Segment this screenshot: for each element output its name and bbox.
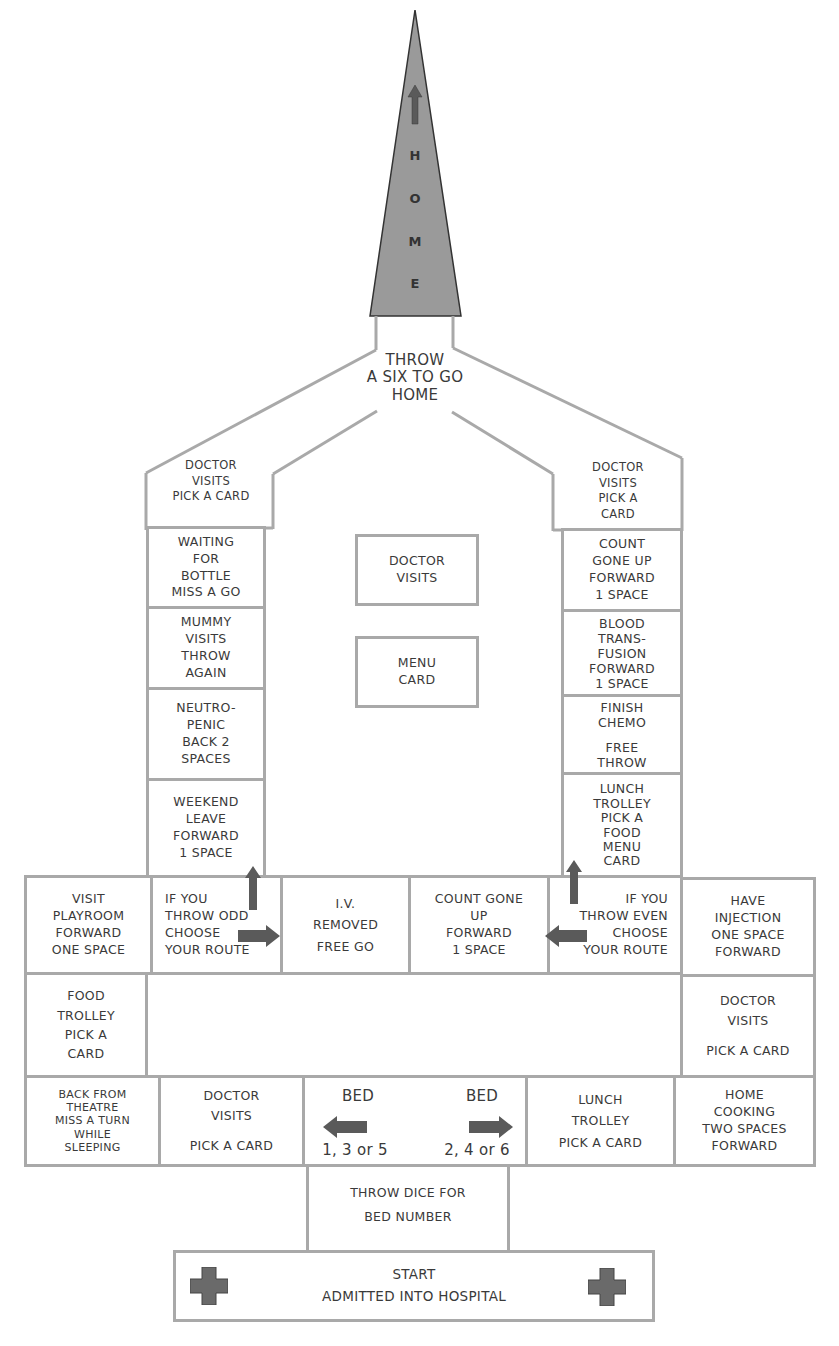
space-line: CARD — [68, 1044, 105, 1063]
space-line: PICK A CARD — [706, 1041, 790, 1061]
space-neutropenic[interactable]: NEUTRO- PENIC BACK 2 SPACES — [146, 687, 266, 781]
space-line: FORWARD — [173, 828, 239, 845]
space-line: COUNT — [599, 536, 645, 553]
space-throw-dice[interactable]: THROW DICE FOR BED NUMBER — [306, 1164, 510, 1254]
space-line: FUSION — [598, 646, 647, 661]
doctor-visits-card-pile[interactable]: DOCTOR VISITS — [355, 534, 479, 606]
space-line: THROW DICE FOR — [350, 1181, 466, 1205]
space-line: FORWARD — [589, 570, 655, 587]
card-pile-line: MENU — [398, 655, 436, 672]
space-line: VISITS — [727, 1011, 768, 1031]
space-count-gone-up[interactable]: COUNT GONE UP FORWARD 1 SPACE — [561, 528, 683, 612]
space-line: TROLLEY — [57, 1006, 115, 1025]
space-line: LEAVE — [186, 811, 227, 828]
space-line: MENU — [603, 840, 641, 854]
space-line: BACK 2 — [182, 734, 230, 751]
space-line: BLOOD — [599, 616, 645, 631]
space-line: DOCTOR — [720, 991, 776, 1011]
go-home-space[interactable]: THROW A SIX TO GO HOME — [345, 352, 485, 404]
space-count-gone-up-middle[interactable]: COUNT GONE UP FORWARD 1 SPACE — [408, 875, 550, 975]
space-line: PICK A — [556, 491, 680, 507]
space-line: INJECTION — [715, 910, 782, 927]
bed-left-label: BED — [333, 1088, 383, 1105]
start-title: START — [392, 1264, 435, 1286]
right-doctor-visits-space[interactable]: DOCTOR VISITS PICK A CARD — [556, 460, 680, 522]
space-blood-transfusion[interactable]: BLOOD TRANS- FUSION FORWARD 1 SPACE — [561, 609, 683, 697]
space-line: TRANS- — [598, 631, 646, 646]
card-pile-line: VISITS — [396, 570, 437, 587]
space-line: THROW EVEN — [579, 908, 668, 925]
space-line: CHOOSE — [165, 925, 220, 942]
menu-card-pile[interactable]: MENU CARD — [355, 636, 479, 708]
space-line: DOCTOR — [203, 1086, 259, 1106]
space-line: FINISH — [600, 700, 643, 715]
space-visit-playroom[interactable]: VISIT PLAYROOM FORWARD ONE SPACE — [24, 875, 153, 975]
go-home-line: HOME — [345, 387, 485, 404]
space-line: I.V. — [336, 893, 356, 914]
space-waiting-for-bottle[interactable]: WAITING FOR BOTTLE MISS A GO — [146, 526, 266, 609]
space-finish-chemo[interactable]: FINISH CHEMO FREE THROW — [561, 694, 683, 775]
space-line: VISITS — [211, 1106, 252, 1126]
spire-letter: H — [405, 148, 425, 163]
space-line: CARD — [604, 854, 641, 868]
space-lunch-trolley-bottom[interactable]: LUNCH TROLLEY PICK A CARD — [525, 1075, 676, 1167]
cross-icon — [190, 1267, 228, 1305]
left-arrow-icon — [323, 1116, 367, 1138]
spire-letter: M — [405, 234, 425, 249]
left-doctor-visits-space[interactable]: DOCTOR VISITS PICK A CARD — [150, 458, 272, 505]
space-line: IF YOU — [625, 891, 668, 908]
space-doctor-visits-right[interactable]: DOCTOR VISITS PICK A CARD — [680, 974, 816, 1078]
space-line: PLAYROOM — [53, 908, 125, 925]
left-arrow-icon — [545, 925, 587, 947]
space-line: 1 SPACE — [595, 587, 649, 604]
go-home-line: THROW — [345, 352, 485, 369]
space-back-from-theatre[interactable]: BACK FROM THEATRE MISS A TURN WHILE SLEE… — [24, 1075, 161, 1167]
start-subtitle: ADMITTED INTO HOSPITAL — [322, 1286, 506, 1308]
space-line: THROW ODD — [165, 908, 249, 925]
space-line: MISS A GO — [171, 584, 240, 601]
space-home-cooking[interactable]: HOME COOKING TWO SPACES FORWARD — [673, 1075, 816, 1167]
space-line: HOME — [725, 1087, 764, 1104]
space-line: PICK A CARD — [559, 1132, 643, 1153]
home-spire — [370, 10, 461, 316]
space-iv-removed[interactable]: I.V. REMOVED FREE GO — [280, 875, 411, 975]
space-start[interactable]: START ADMITTED INTO HOSPITAL — [173, 1250, 655, 1322]
space-line: SLEEPING — [64, 1141, 120, 1154]
space-line: FORWARD — [446, 925, 512, 942]
up-arrow-icon — [244, 866, 262, 910]
space-food-trolley[interactable]: FOOD TROLLEY PICK A CARD — [24, 972, 148, 1078]
go-home-line: A SIX TO GO — [345, 369, 485, 386]
bed-left-numbers: 1, 3 or 5 — [315, 1142, 395, 1159]
space-line: FOOD — [67, 986, 105, 1005]
space-line: THEATRE — [66, 1101, 118, 1114]
cross-icon — [588, 1268, 626, 1306]
space-line: ONE SPACE — [711, 927, 784, 944]
space-mummy-visits[interactable]: MUMMY VISITS THROW AGAIN — [146, 606, 266, 690]
card-pile-line: CARD — [399, 672, 436, 689]
space-line: PICK A CARD — [150, 489, 272, 505]
spire-letter: E — [405, 276, 425, 291]
space-bed-choice[interactable]: BED 1, 3 or 5 BED 2, 4 or 6 — [302, 1075, 528, 1167]
space-line: CHOOSE — [613, 925, 668, 942]
space-line: WEEKEND — [173, 794, 238, 811]
space-line: BOTTLE — [181, 568, 231, 585]
space-doctor-visits-bottom[interactable]: DOCTOR VISITS PICK A CARD — [158, 1075, 305, 1167]
space-line: FREE GO — [317, 936, 374, 957]
space-line: PICK A — [65, 1025, 107, 1044]
space-line: WHILE — [74, 1128, 111, 1141]
space-line: FORWARD — [712, 1138, 778, 1155]
space-line: FREE — [606, 740, 639, 755]
space-line: VISITS — [556, 476, 680, 492]
space-line: LUNCH — [578, 1089, 622, 1110]
card-pile-line: DOCTOR — [389, 553, 445, 570]
space-line: 1 SPACE — [179, 845, 233, 862]
space-line: 1 SPACE — [595, 676, 649, 691]
space-line: WAITING — [178, 534, 234, 551]
space-line: FOOD — [603, 826, 641, 840]
board-center-area — [145, 972, 683, 1078]
space-weekend-leave[interactable]: WEEKEND LEAVE FORWARD 1 SPACE — [146, 778, 266, 878]
space-have-injection[interactable]: HAVE INJECTION ONE SPACE FORWARD — [680, 877, 816, 977]
up-arrow-icon — [408, 85, 422, 124]
up-arrow-icon — [565, 860, 583, 904]
space-line: THROW — [597, 755, 646, 770]
